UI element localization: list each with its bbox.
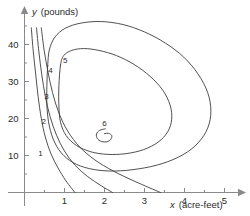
x-axis-title: x(acre-feet) [169,199,223,210]
y-axis-title-var: y [31,6,38,17]
contour-label-1: 1 [38,149,43,158]
contour-curves-group [31,22,211,193]
x-tick-label-5: 5 [222,195,227,206]
contour-curve-level-1 [31,28,75,193]
contour-plot-figure: 1234510203040 123456 x(acre-feet) y(poun… [0,0,250,216]
contour-curve-level-4 [47,22,211,172]
y-tick-label-10: 10 [8,150,19,161]
contour-curve-level-6 [96,129,112,142]
contour-label-6: 6 [102,119,107,128]
contour-label-3: 3 [44,92,49,101]
y-axis-title: y(pounds) [31,6,78,17]
x-axis-arrow-icon [238,189,246,196]
contour-label-2: 2 [41,117,46,126]
y-axis-arrow-icon [21,6,28,14]
tick-marks-group [25,26,225,193]
x-axis-title-var: x [169,199,176,210]
y-axis-title-units: (pounds) [41,6,79,17]
contour-plot-canvas: 1234510203040 123456 x(acre-feet) y(poun… [0,0,250,216]
x-axis-title-units: (acre-feet) [179,199,223,210]
y-tick-label-30: 30 [8,76,19,87]
contour-label-5: 5 [63,56,68,65]
contour-label-4: 4 [48,66,53,75]
x-tick-label-3: 3 [142,195,147,206]
x-tick-label-2: 2 [102,195,107,206]
contour-curve-level-5 [59,49,172,155]
y-tick-label-20: 20 [8,113,19,124]
contour-curve-level-2 [37,28,113,193]
x-tick-label-1: 1 [62,195,67,206]
y-tick-label-40: 40 [8,39,19,50]
